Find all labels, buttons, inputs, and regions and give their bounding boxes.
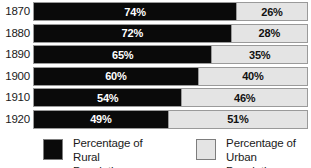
- rural-swatch-icon: [43, 139, 63, 160]
- rural-segment-1920: 49%: [34, 111, 168, 128]
- legend-label-urban-line1: Percentage of: [226, 136, 311, 150]
- table-row: 1880 72% 28%: [0, 24, 311, 43]
- urban-segment-1880: 28%: [231, 25, 307, 42]
- rural-segment-1870: 74%: [34, 3, 236, 20]
- year-label-1890: 1890: [0, 45, 30, 64]
- legend-label-urban: Percentage of Urban Population: [226, 136, 311, 168]
- chart-plot-area: 1870 74% 26% 1880 72% 28% 1890 65% 35% 1…: [0, 2, 311, 132]
- year-label-1870: 1870: [0, 2, 30, 21]
- rural-segment-1890: 65%: [34, 46, 211, 63]
- legend-item-rural: Percentage of Rural Population: [43, 136, 154, 168]
- legend-label-rural-line2: Rural Population: [73, 150, 154, 168]
- urban-segment-1900: 40%: [198, 68, 307, 85]
- urban-segment-1870: 26%: [236, 3, 307, 20]
- legend-label-urban-line2: Urban Population: [226, 150, 311, 168]
- table-row: 1910 54% 46%: [0, 88, 311, 107]
- urban-segment-1890: 35%: [211, 46, 307, 63]
- year-label-1900: 1900: [0, 67, 30, 86]
- stacked-bar-chart: 1870 74% 26% 1880 72% 28% 1890 65% 35% 1…: [0, 0, 311, 168]
- table-row: 1870 74% 26%: [0, 2, 311, 21]
- bar-track-1870: 74% 26%: [33, 2, 308, 21]
- bar-track-1910: 54% 46%: [33, 88, 308, 107]
- table-row: 1900 60% 40%: [0, 67, 311, 86]
- table-row: 1920 49% 51%: [0, 110, 311, 129]
- legend-label-rural-line1: Percentage of: [73, 136, 154, 150]
- chart-legend: Percentage of Rural Population Percentag…: [0, 136, 311, 168]
- rural-segment-1910: 54%: [34, 89, 181, 106]
- bar-track-1880: 72% 28%: [33, 24, 308, 43]
- bar-track-1900: 60% 40%: [33, 67, 308, 86]
- year-label-1880: 1880: [0, 24, 30, 43]
- legend-label-rural: Percentage of Rural Population: [73, 136, 154, 168]
- bar-track-1920: 49% 51%: [33, 110, 308, 129]
- urban-swatch-icon: [196, 139, 216, 160]
- year-label-1910: 1910: [0, 88, 30, 107]
- bar-track-1890: 65% 35%: [33, 45, 308, 64]
- legend-item-urban: Percentage of Urban Population: [196, 136, 311, 168]
- rural-segment-1880: 72%: [34, 25, 231, 42]
- table-row: 1890 65% 35%: [0, 45, 311, 64]
- year-label-1920: 1920: [0, 110, 30, 129]
- rural-segment-1900: 60%: [34, 68, 198, 85]
- urban-segment-1910: 46%: [181, 89, 307, 106]
- urban-segment-1920: 51%: [168, 111, 307, 128]
